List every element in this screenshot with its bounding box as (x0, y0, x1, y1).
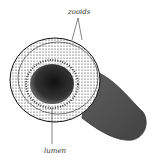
illustration: zooids lumen (0, 0, 155, 163)
colony-drawing (0, 0, 155, 163)
lumen-label: lumen (44, 147, 66, 155)
zooids-label: zooids (68, 8, 90, 16)
